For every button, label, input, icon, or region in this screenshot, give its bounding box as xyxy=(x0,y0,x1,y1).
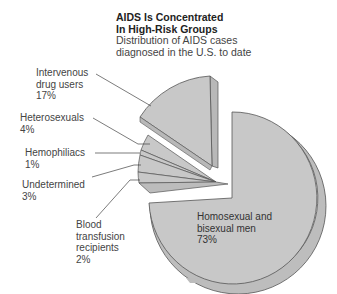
label-blood-line3: recipients xyxy=(76,242,125,254)
label-ivdu-line1: Intervenous xyxy=(36,67,88,79)
label-blood-pct: 2% xyxy=(76,254,125,266)
label-homo-pct: 73% xyxy=(197,234,272,246)
label-homosexual: Homosexual and bisexual men 73% xyxy=(197,211,272,246)
label-hetero-line1: Heterosexuals xyxy=(20,112,84,124)
label-undetermined: Undetermined 3% xyxy=(22,179,85,202)
label-ivdu-pct: 17% xyxy=(36,90,88,102)
label-blood-transfusion: Blood transfusion recipients 2% xyxy=(76,219,125,265)
label-hemophiliacs: Hemophiliacs 1% xyxy=(25,147,85,170)
label-homo-line2: bisexual men xyxy=(197,223,272,235)
label-undet-line1: Undetermined xyxy=(22,179,85,191)
label-undet-pct: 3% xyxy=(22,191,85,203)
label-blood-line1: Blood xyxy=(76,219,125,231)
label-ivdu: Intervenous drug users 17% xyxy=(36,67,88,102)
label-heterosexuals: Heterosexuals 4% xyxy=(20,112,84,135)
label-homo-line1: Homosexual and xyxy=(197,211,272,223)
label-hemo-line1: Hemophiliacs xyxy=(25,147,85,159)
leader-lines xyxy=(92,74,151,218)
label-blood-line2: transfusion xyxy=(76,231,125,243)
label-hemo-pct: 1% xyxy=(25,159,85,171)
label-hetero-pct: 4% xyxy=(20,124,84,136)
label-ivdu-line2: drug users xyxy=(36,79,88,91)
